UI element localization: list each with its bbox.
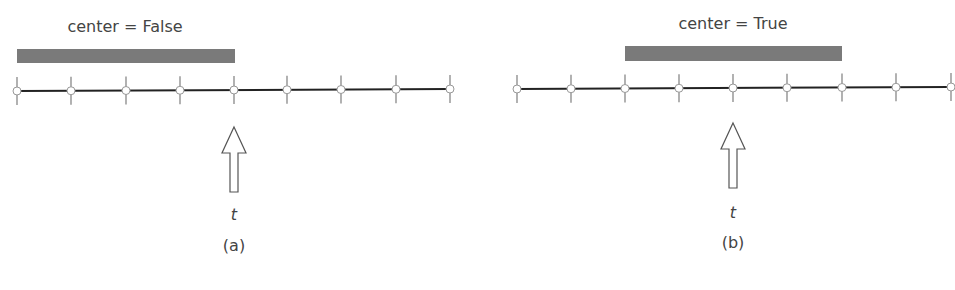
rolling-window-diagram	[0, 0, 955, 290]
panel-a-caption: (a)	[223, 236, 245, 255]
up-arrow-icon	[721, 123, 745, 188]
time-node	[621, 85, 629, 93]
time-node	[783, 84, 791, 92]
time-node	[567, 85, 575, 93]
panel-a-title: center = False	[67, 17, 182, 36]
time-node	[67, 87, 75, 95]
panel-b-caption: (b)	[722, 233, 745, 252]
time-node	[838, 84, 846, 92]
time-node	[176, 86, 184, 94]
time-node	[230, 86, 238, 94]
time-node	[283, 86, 291, 94]
window-bar	[625, 46, 842, 61]
time-node	[729, 84, 737, 92]
window-bar	[17, 49, 235, 63]
time-node	[675, 84, 683, 92]
panel-b-title: center = True	[678, 14, 787, 33]
time-node	[513, 85, 521, 93]
time-node	[122, 87, 130, 95]
time-node	[892, 83, 900, 91]
time-node	[446, 85, 454, 93]
time-node	[392, 85, 400, 93]
panel-a-time-label: t	[231, 205, 237, 224]
time-node	[13, 87, 21, 95]
time-node	[337, 86, 345, 94]
panel-b-time-label: t	[730, 203, 736, 222]
time-node	[947, 83, 955, 91]
up-arrow-icon	[222, 127, 246, 192]
